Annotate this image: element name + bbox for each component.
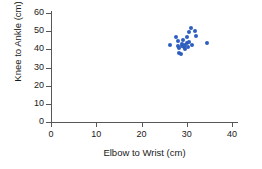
data-point [187, 30, 191, 34]
y-tick-mark [46, 31, 51, 32]
y-tick-mark [46, 68, 51, 69]
y-tick-label: 60 [20, 7, 44, 17]
x-tick-label: 0 [39, 129, 63, 139]
data-point [168, 43, 172, 47]
data-point [205, 41, 209, 45]
x-tick-mark [51, 122, 52, 127]
x-tick-label: 40 [220, 129, 244, 139]
x-tick-mark [142, 122, 143, 127]
y-tick-label: 20 [20, 80, 44, 90]
plot-area: 0102030405060 010203040 Knee to Ankle (c… [0, 0, 262, 169]
x-tick-mark [187, 122, 188, 127]
y-axis-title: Knee to Ankle (cm) [12, 0, 23, 97]
y-tick-mark [46, 86, 51, 87]
data-point [194, 34, 198, 38]
y-tick-label: 0 [20, 116, 44, 126]
y-tick-label: 30 [20, 62, 44, 72]
y-tick-label: 10 [20, 98, 44, 108]
y-tick-label: 50 [20, 25, 44, 35]
y-tick-mark [46, 49, 51, 50]
y-tick-mark [46, 104, 51, 105]
data-point [185, 35, 189, 39]
data-point [193, 29, 197, 33]
y-tick-label: 40 [20, 43, 44, 53]
x-axis-title: Elbow to Wrist (cm) [51, 147, 238, 158]
x-tick-label: 20 [130, 129, 154, 139]
data-point [179, 52, 183, 56]
x-tick-label: 30 [175, 129, 199, 139]
data-point [190, 43, 194, 47]
x-tick-label: 10 [84, 129, 108, 139]
data-point [186, 45, 190, 49]
scatter-chart: 0102030405060 010203040 Knee to Ankle (c… [0, 0, 262, 169]
y-tick-mark [46, 13, 51, 14]
x-tick-mark [96, 122, 97, 127]
y-axis-line [51, 11, 52, 123]
x-axis-line [51, 122, 238, 123]
x-tick-mark [232, 122, 233, 127]
